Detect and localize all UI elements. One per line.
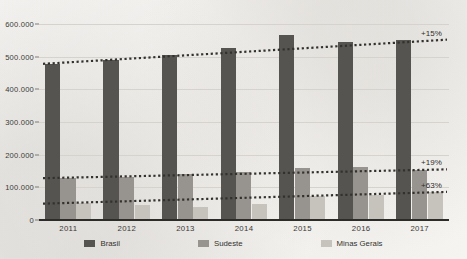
x-axis-label-2011: 2011 <box>59 224 77 233</box>
x-axis-label-2017: 2017 <box>410 224 429 233</box>
legend-item-minas-gerais[interactable]: Minas Gerais <box>321 239 383 248</box>
y-axis-tick-label: 300.000 <box>5 118 34 127</box>
y-axis-tick-label: 600.000 <box>5 20 34 29</box>
plot-area: 0100.000200.000300.000400.000500.000600.… <box>39 24 449 220</box>
growth-label-sudeste: +19% <box>421 158 442 167</box>
legend-item-brasil[interactable]: Brasil <box>84 239 120 248</box>
x-axis-label-2013: 2013 <box>176 224 195 233</box>
y-axis-tick-label: 0 <box>30 216 34 225</box>
y-axis-tick-label: 400.000 <box>5 85 34 94</box>
legend-label: Brasil <box>100 239 120 248</box>
legend-label: Sudeste <box>214 239 243 248</box>
growth-label-minas-gerais: +63% <box>421 181 442 190</box>
legend-swatch-icon <box>198 240 209 247</box>
y-axis-tick-label: 100.000 <box>5 183 34 192</box>
bar-chart: 0100.000200.000300.000400.000500.000600.… <box>0 0 467 259</box>
trendline-brasil <box>43 40 447 64</box>
x-axis-label-2016: 2016 <box>352 224 371 233</box>
trendlines <box>39 24 449 220</box>
legend-item-sudeste[interactable]: Sudeste <box>198 239 243 248</box>
trendline-minas-gerais <box>43 192 447 204</box>
x-axis-label-2015: 2015 <box>293 224 312 233</box>
x-axis-line <box>39 219 449 221</box>
x-axis-label-2014: 2014 <box>235 224 254 233</box>
trendline-sudeste <box>43 169 447 178</box>
legend-label: Minas Gerais <box>337 239 383 248</box>
x-axis-label-2012: 2012 <box>118 224 137 233</box>
legend-swatch-icon <box>84 240 95 247</box>
growth-label-brasil: +15% <box>421 29 442 38</box>
y-axis-tick-label: 500.000 <box>5 52 34 61</box>
y-axis-tick-label: 200.000 <box>5 150 34 159</box>
legend-swatch-icon <box>321 240 332 247</box>
chart-legend: BrasilSudesteMinas Gerais <box>0 239 467 248</box>
